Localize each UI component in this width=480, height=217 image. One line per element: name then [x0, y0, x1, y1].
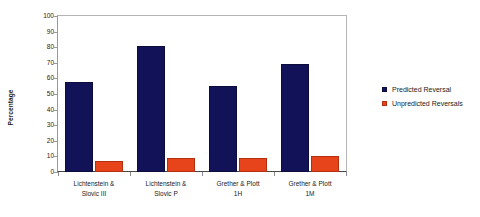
x-axis-category-label-line: Lichtenstein &: [130, 179, 202, 189]
y-axis-tick-label: 100: [30, 13, 54, 20]
x-axis-category-label-line: 1M: [274, 189, 346, 199]
legend-swatch-icon: [382, 101, 387, 106]
legend-swatch-icon: [382, 87, 387, 92]
y-axis-tick-label: 60: [30, 75, 54, 82]
x-axis-category-label: Lichtenstein &Slovic P: [130, 179, 202, 199]
legend-item-label: Predicted Reversal: [392, 86, 451, 93]
x-axis-tick-mark: [274, 172, 275, 176]
bar: [95, 161, 123, 172]
x-axis-category-label-line: Slovic III: [58, 189, 130, 199]
x-axis-tick-mark: [130, 172, 131, 176]
bar-group: [274, 16, 346, 172]
y-axis-tick-label: 40: [30, 106, 54, 113]
y-axis-tick-label: 50: [30, 91, 54, 98]
chart-legend: Predicted ReversalUnpredicted Reversals: [382, 82, 463, 110]
bar: [209, 86, 237, 172]
bar: [137, 46, 165, 172]
x-axis-category-label: Grether & Plott1H: [202, 179, 274, 199]
bar: [167, 158, 195, 172]
x-axis-category-label-line: 1H: [202, 189, 274, 199]
bar-group: [202, 16, 274, 172]
bar: [65, 82, 93, 172]
bar: [311, 156, 339, 172]
y-axis-title-text: Percentage: [7, 89, 14, 125]
legend-item-label: Unpredicted Reversals: [392, 100, 463, 107]
x-axis-tick-mark: [346, 172, 347, 176]
bar-group: [58, 16, 130, 172]
bar-group: [130, 16, 202, 172]
x-axis-category-label-line: Lichtenstein &: [58, 179, 130, 189]
x-axis-tick-mark: [202, 172, 203, 176]
y-axis-tick-label: 30: [30, 122, 54, 129]
y-axis-tick-label: 10: [30, 153, 54, 160]
y-axis-tick-label: 80: [30, 44, 54, 51]
bars-layer: [58, 16, 346, 172]
x-axis-category-label-line: Slovic P: [130, 189, 202, 199]
x-axis-category-label-line: Grether & Plott: [274, 179, 346, 189]
legend-item[interactable]: Predicted Reversal: [382, 82, 463, 96]
y-axis-tick-label: 90: [30, 28, 54, 35]
y-axis-tick-label: 20: [30, 138, 54, 145]
x-axis-tick-mark: [58, 172, 59, 176]
bar: [281, 64, 309, 172]
x-axis-category-label-line: Grether & Plott: [202, 179, 274, 189]
bar: [239, 158, 267, 172]
bar-chart: Percentage 1009080706050403020100 Lichte…: [0, 0, 480, 217]
legend-item[interactable]: Unpredicted Reversals: [382, 96, 463, 110]
y-axis-title: Percentage: [2, 62, 18, 152]
x-axis-category-label: Grether & Plott1M: [274, 179, 346, 199]
y-axis-tick-label: 70: [30, 60, 54, 67]
y-axis-tick-label: 0: [30, 169, 54, 176]
x-axis-category-label: Lichtenstein &Slovic III: [58, 179, 130, 199]
